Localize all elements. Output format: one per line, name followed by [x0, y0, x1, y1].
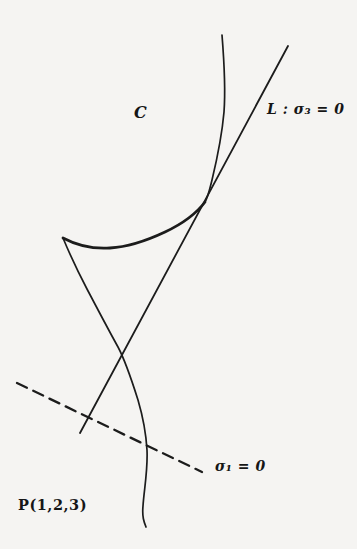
dashed-line-sigma1 — [17, 383, 202, 472]
math-figure: C L : σ₃ = 0 σ₁ = 0 P(1,2,3) — [0, 0, 357, 549]
figure-canvas — [0, 0, 357, 549]
dashed-line-label: σ₁ = 0 — [215, 458, 266, 474]
curve-C-top-branch — [205, 35, 225, 202]
tangent-line-label: L : σ₃ = 0 — [267, 101, 344, 117]
point-P-label: P(1,2,3) — [18, 496, 87, 513]
curve-C-lower-branch — [63, 238, 147, 527]
curve-C-label: C — [134, 103, 147, 122]
tangent-line-L — [80, 46, 288, 433]
